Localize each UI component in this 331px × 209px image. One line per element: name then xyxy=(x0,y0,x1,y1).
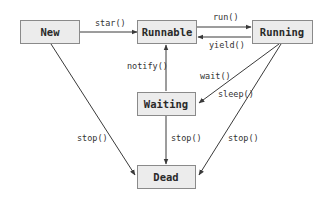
state-diagram: star() run() yield() wait() sleep() noti… xyxy=(0,0,331,209)
label-notify: notify() xyxy=(127,61,168,71)
label-star: star() xyxy=(95,18,126,28)
state-waiting: Waiting xyxy=(138,93,196,116)
state-runnable: Runnable xyxy=(138,21,197,44)
edge-running-to-dead-stop xyxy=(199,44,281,175)
label-stop-running: stop() xyxy=(228,133,259,143)
state-new-label: New xyxy=(41,26,61,38)
state-new: New xyxy=(21,21,80,44)
state-runnable-label: Runnable xyxy=(142,26,193,38)
state-running-label: Running xyxy=(260,26,304,38)
label-run: run() xyxy=(213,12,239,22)
label-stop-new: stop() xyxy=(77,133,108,143)
label-stop-waiting: stop() xyxy=(171,133,202,143)
state-running: Running xyxy=(253,21,313,44)
state-dead: Dead xyxy=(138,166,196,189)
state-waiting-label: Waiting xyxy=(144,98,188,110)
label-yield: yield() xyxy=(209,40,245,50)
edge-new-to-dead xyxy=(51,44,135,175)
label-sleep: sleep() xyxy=(218,89,254,99)
label-wait: wait() xyxy=(200,71,231,81)
state-dead-label: Dead xyxy=(153,171,178,183)
